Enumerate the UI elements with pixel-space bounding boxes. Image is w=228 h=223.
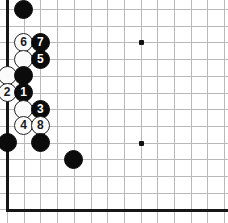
black-stone-top <box>14 0 33 19</box>
stone-label: 1 <box>15 84 32 101</box>
stone-label <box>15 1 32 18</box>
stone-label: 4 <box>15 117 32 134</box>
stone-label <box>0 67 16 84</box>
stone-label <box>0 134 16 151</box>
black-stone-bottom-left <box>0 133 17 152</box>
stone-label: 3 <box>32 101 49 118</box>
stone-label <box>15 67 32 84</box>
stone-label <box>15 101 32 118</box>
stones-layer: 67521348 <box>0 0 228 223</box>
stone-label <box>15 51 32 68</box>
stone-label: 5 <box>32 51 49 68</box>
stone-label <box>65 151 82 168</box>
stone-label: 6 <box>15 34 32 51</box>
black-stone-bottom-mid <box>31 133 50 152</box>
black-stone-5: 5 <box>31 50 50 69</box>
stone-label: 8 <box>32 117 49 134</box>
stone-label: 2 <box>0 84 16 101</box>
go-board-diagram: 67521348 <box>0 0 228 223</box>
black-stone-bottom-right <box>64 150 83 169</box>
stone-label: 7 <box>32 34 49 51</box>
stone-label <box>32 134 49 151</box>
